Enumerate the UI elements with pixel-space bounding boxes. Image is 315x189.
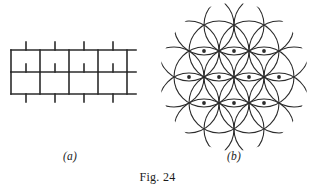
panel-b-flower-of-life (158, 2, 310, 152)
lattice-node-dot-7 (232, 101, 236, 105)
lattice-node-dot-6 (277, 75, 281, 79)
lattice-node-dot-3 (217, 75, 221, 79)
lattice-node-dot-2 (262, 49, 266, 53)
lattice-node-dot-1 (202, 49, 206, 53)
lattice-circle-11 (264, 47, 315, 107)
lattice-node-dot-9 (262, 101, 266, 105)
lattice-node-dot-8 (202, 101, 206, 105)
flower-of-life-drawing (158, 2, 310, 152)
brick-line-group (11, 42, 136, 102)
brick-tessellation-drawing (8, 38, 140, 108)
lattice-node-dot-5 (187, 75, 191, 79)
circle-line-group (144, 0, 315, 159)
figure-caption: Fig. 24 (0, 170, 315, 185)
panel-b-sublabel: (b) (204, 150, 264, 162)
lattice-node-dot-0 (232, 49, 236, 53)
lattice-node-dot-4 (247, 75, 251, 79)
panel-a-sublabel: (a) (40, 150, 100, 162)
figure-plate: (a) (b) Fig. 24 (0, 0, 315, 189)
panel-a-brick-tessellation (8, 38, 140, 108)
